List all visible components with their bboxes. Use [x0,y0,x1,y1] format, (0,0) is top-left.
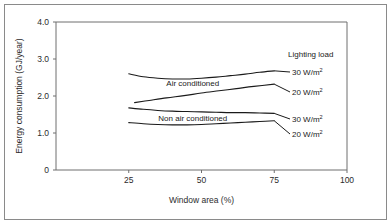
y-tick-label: 3.0 [37,54,49,64]
series-line [129,108,275,114]
y-tick-label: 1.0 [37,128,49,138]
y-tick-label: 4.0 [37,17,49,27]
curve-group-label: Air conditioned [166,79,219,88]
line-chart: 01.02.03.04.0255075100 Air conditionedNo… [0,0,391,224]
x-tick-label: 50 [197,175,207,185]
legend-leader-line [274,84,290,92]
legend-label-superscript: 2 [320,129,323,135]
y-axis-title: Energy consumption (GJ/year) [14,38,24,153]
series-line [129,71,275,79]
legend-heading: Lighting load [288,50,333,59]
x-tick-label: 75 [270,175,280,185]
tick-marks [53,22,347,173]
chart-figure: 01.02.03.04.0255075100 Air conditionedNo… [0,0,391,224]
legend-leader-line [274,113,290,119]
curve-group-labels: Air conditionedNon air conditioned [158,79,227,123]
legend-label-superscript: 2 [320,114,323,120]
legend-label: 20 W/m2 [292,129,323,139]
legend-label-superscript: 2 [320,67,323,73]
legend-leader-line [274,71,290,72]
x-tick-label: 100 [340,175,354,185]
x-axis-title: Window area (%) [169,195,234,205]
x-tick-label: 25 [124,175,134,185]
tick-labels: 01.02.03.04.0255075100 [37,17,354,185]
legend-leader-line [274,121,290,134]
legend-label: 20 W/m2 [292,87,323,97]
legend-leader-lines [274,71,290,134]
y-tick-label: 0 [44,165,49,175]
y-tick-label: 2.0 [37,91,49,101]
legend-label: 30 W/m2 [292,67,323,77]
curve-group-label: Non air conditioned [158,114,227,123]
legend-label: 30 W/m2 [292,114,323,124]
legend: 30 W/m220 W/m230 W/m220 W/m2Lighting loa… [288,50,333,139]
legend-label-superscript: 2 [320,87,323,93]
